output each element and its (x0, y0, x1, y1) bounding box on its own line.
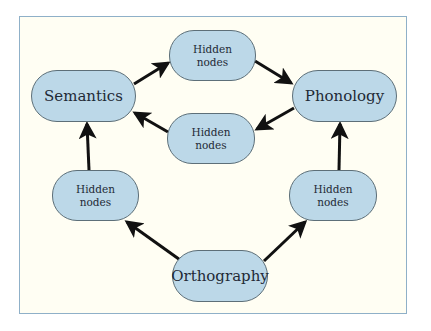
node-label: Phonology (305, 87, 384, 105)
node-label: Hidden nodes (314, 183, 353, 209)
node-label: Hidden nodes (192, 126, 231, 152)
node-orthography: Orthography (172, 250, 268, 302)
arrow-phonology-to-hidden-middle (257, 108, 294, 129)
arrow-hidden-top-to-phonology (255, 61, 291, 83)
node-label: Hidden nodes (193, 43, 232, 69)
arrow-orthography-to-hidden-right (264, 222, 305, 261)
node-hidden-left: Hidden nodes (52, 170, 139, 221)
node-label: Hidden nodes (76, 183, 115, 209)
node-label: Orthography (171, 267, 269, 285)
arrow-hidden-right-to-phonology (339, 124, 340, 170)
arrow-orthography-to-hidden-left (127, 222, 183, 262)
arrow-semantics-to-hidden-top (134, 63, 168, 84)
node-hidden-middle: Hidden nodes (167, 113, 255, 164)
arrow-hidden-left-to-semantics (87, 124, 89, 170)
node-hidden-right: Hidden nodes (289, 170, 377, 221)
node-phonology: Phonology (292, 70, 397, 122)
node-hidden-top: Hidden nodes (169, 30, 256, 81)
node-label: Semantics (44, 87, 123, 105)
node-semantics: Semantics (31, 70, 136, 122)
arrow-hidden-middle-to-semantics (135, 113, 168, 132)
